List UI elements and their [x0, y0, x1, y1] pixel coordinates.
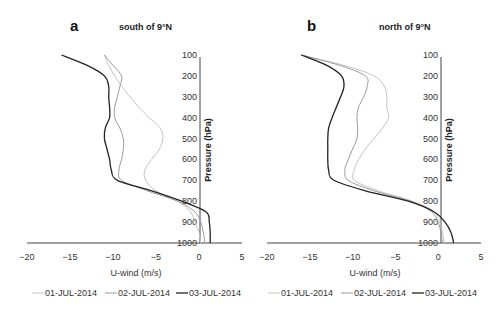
- series-line: [301, 55, 453, 243]
- panel-a-x-label: U-wind (m/s): [111, 268, 162, 278]
- legend-label: 03-JUL-2014: [425, 288, 477, 298]
- panel-a-series: [61, 55, 210, 243]
- panel-b-x-ticks: −20−15−10−505: [259, 252, 483, 262]
- series-line: [61, 55, 210, 243]
- y-tick-label: 700: [423, 175, 438, 185]
- series-line: [301, 55, 444, 243]
- panel-b-y-ticks: 1002003004005006007008009001000: [418, 50, 438, 248]
- x-tick-label: −20: [259, 252, 274, 262]
- panel-b-title: north of 9°N: [379, 22, 431, 32]
- x-tick-label: −10: [105, 252, 120, 262]
- y-tick-label: 600: [423, 154, 438, 164]
- legend-label: 01-JUL-2014: [281, 288, 333, 298]
- x-tick-label: 0: [436, 252, 441, 262]
- panel-a-y-label: Pressure (hPa): [203, 118, 213, 182]
- panel-b-x-label: U-wind (m/s): [350, 268, 401, 278]
- y-tick-label: 500: [423, 134, 438, 144]
- panel-b-letter: b: [307, 17, 316, 34]
- y-tick-label: 200: [182, 71, 197, 81]
- legend-label: 03-JUL-2014: [189, 288, 241, 298]
- legend-label: 02-JUL-2014: [118, 288, 170, 298]
- y-tick-label: 400: [182, 113, 197, 123]
- panel-b-series: [301, 55, 453, 243]
- panel-a-letter: a: [70, 17, 79, 34]
- panel-b: b north of 9°N 1002003004005006007008009…: [259, 17, 483, 298]
- y-tick-label: 700: [182, 175, 197, 185]
- chart-figure: a south of 9°N 1002003004005006007008009…: [0, 0, 503, 317]
- y-tick-label: 800: [423, 196, 438, 206]
- x-tick-label: −20: [19, 252, 34, 262]
- panel-a-title: south of 9°N: [119, 22, 172, 32]
- panel-a-x-ticks: −20−15−10−505: [19, 252, 244, 262]
- x-tick-label: −15: [62, 252, 77, 262]
- y-tick-label: 900: [423, 217, 438, 227]
- y-tick-label: 100: [182, 50, 197, 60]
- x-tick-label: −5: [151, 252, 161, 262]
- series-line: [104, 55, 200, 243]
- x-tick-label: 5: [478, 252, 483, 262]
- y-tick-label: 600: [182, 154, 197, 164]
- panel-a-legend: 01-JUL-201402-JUL-201403-JUL-2014: [32, 288, 241, 298]
- y-tick-label: 500: [182, 134, 197, 144]
- y-tick-label: 400: [423, 113, 438, 123]
- y-tick-label: 300: [423, 92, 438, 102]
- panel-b-y-label: Pressure (hPa): [444, 118, 454, 182]
- legend-label: 01-JUL-2014: [45, 288, 97, 298]
- x-tick-label: −5: [390, 252, 400, 262]
- x-tick-label: 5: [239, 252, 244, 262]
- y-tick-label: 100: [423, 50, 438, 60]
- y-tick-label: 200: [423, 71, 438, 81]
- x-tick-label: −15: [302, 252, 317, 262]
- x-tick-label: 0: [196, 252, 201, 262]
- series-line: [301, 55, 442, 243]
- y-tick-label: 300: [182, 92, 197, 102]
- panel-a: a south of 9°N 1002003004005006007008009…: [19, 17, 244, 298]
- x-tick-label: −10: [345, 252, 360, 262]
- panel-b-legend: 01-JUL-201402-JUL-201403-JUL-2014: [268, 288, 477, 298]
- legend-label: 02-JUL-2014: [354, 288, 406, 298]
